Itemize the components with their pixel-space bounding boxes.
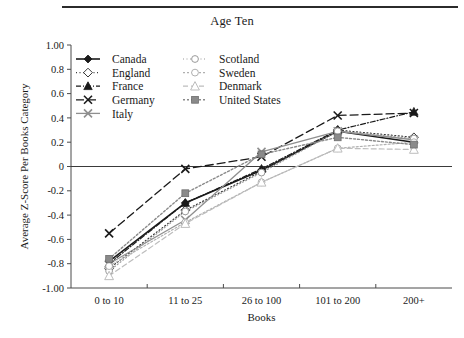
y-axis-tick-label: -0.4 <box>47 210 64 221</box>
data-point-marker <box>106 255 113 262</box>
marker-square-filled <box>106 255 113 262</box>
legend-label: Germany <box>112 94 155 107</box>
y-axis-tick-label: -0.8 <box>47 258 64 269</box>
data-point-marker <box>334 134 341 141</box>
x-axis-tick-label: 0 to 10 <box>95 295 124 306</box>
marker-square-filled <box>182 190 189 197</box>
x-axis-title: Books <box>247 311 275 323</box>
line-chart-plot: 1.000.80.60.40.20-0.2-0.4-0.6-0.8-1.000 … <box>0 0 464 338</box>
data-point-marker <box>105 229 113 237</box>
y-axis-tick-label: 0 <box>59 161 64 172</box>
marker-circle-open <box>182 208 189 215</box>
y-axis-tick-label: -0.6 <box>47 234 64 245</box>
data-point-marker <box>258 151 265 158</box>
series-line-sweden <box>109 142 414 266</box>
marker-diamond-open <box>84 68 93 77</box>
legend-item-england[interactable]: England <box>76 67 151 80</box>
legend-item-scotland[interactable]: Scotland <box>183 53 259 65</box>
data-point-marker <box>411 141 418 148</box>
marker-cross <box>105 229 113 237</box>
legend-label: Scotland <box>219 53 259 65</box>
legend-item-france[interactable]: France <box>76 80 143 92</box>
legend-label: United States <box>219 94 281 106</box>
data-point-marker <box>182 208 189 215</box>
y-axis-tick-label: 0.8 <box>51 64 64 75</box>
marker-square-filled <box>258 151 265 158</box>
marker-square-filled <box>411 141 418 148</box>
legend-label: Italy <box>112 108 133 121</box>
y-axis-tick-label: 1.00 <box>46 40 64 51</box>
y-axis-tick-label: 0.6 <box>51 88 64 99</box>
legend-item-united-states[interactable]: United States <box>183 94 281 106</box>
y-axis-tick-label: -0.2 <box>47 185 64 196</box>
x-axis-tick-label: 11 to 25 <box>168 295 202 306</box>
data-point-marker <box>84 68 93 77</box>
figure-container: Age Ten 1.000.80.60.40.20-0.2-0.4-0.6-0.… <box>0 0 464 338</box>
marker-square-filled <box>192 96 199 103</box>
legend-item-canada[interactable]: Canada <box>76 53 146 65</box>
legend-label: Denmark <box>219 80 262 92</box>
legend-item-denmark[interactable]: Denmark <box>183 80 262 92</box>
marker-circle-open <box>192 69 199 76</box>
data-point-marker <box>258 169 265 176</box>
data-point-marker <box>192 56 199 63</box>
y-axis-title: Average Z-Score Per Books Category <box>18 83 30 249</box>
x-axis-tick-label: 101 to 200 <box>315 295 360 306</box>
data-point-marker <box>192 69 199 76</box>
legend-label: Sweden <box>219 67 256 79</box>
legend-item-italy[interactable]: Italy <box>76 108 133 121</box>
data-point-marker <box>106 263 113 270</box>
legend-label: France <box>112 80 143 92</box>
marker-circle-open <box>106 263 113 270</box>
marker-circle-open <box>192 56 199 63</box>
data-point-marker <box>182 190 189 197</box>
data-point-marker <box>84 55 92 63</box>
x-axis-tick-label: 200+ <box>403 295 425 306</box>
y-axis-tick-label: 0.2 <box>51 137 64 148</box>
legend-label: Canada <box>112 53 146 65</box>
x-axis-tick-label: 26 to 100 <box>242 295 282 306</box>
marker-circle-open <box>258 169 265 176</box>
marker-diamond-filled <box>84 55 92 63</box>
legend-item-sweden[interactable]: Sweden <box>183 67 256 79</box>
legend-label: England <box>112 67 151 80</box>
y-axis-tick-label: 0.4 <box>51 113 65 124</box>
data-point-marker <box>192 96 199 103</box>
marker-square-filled <box>334 134 341 141</box>
y-axis-tick-label: -1.00 <box>42 283 64 294</box>
legend-item-germany[interactable]: Germany <box>76 94 155 107</box>
